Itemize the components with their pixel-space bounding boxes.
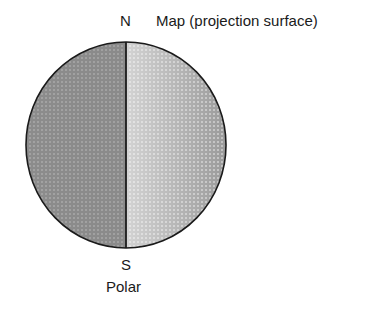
projection-surface-label: Map (projection surface)	[156, 12, 318, 29]
south-pole-label: S	[121, 256, 131, 273]
north-pole-label: N	[120, 12, 131, 29]
polar-projection-diagram	[0, 0, 373, 311]
diagram-caption: Polar	[106, 278, 141, 295]
